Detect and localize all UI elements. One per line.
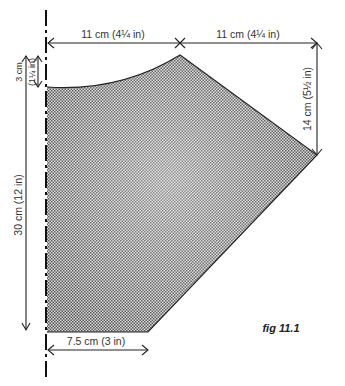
dim-top-left-width: 11 cm (4¼ in) <box>48 28 185 48</box>
dim-bottom-width: 7.5 cm (3 in) <box>48 335 148 355</box>
label-right-height: 14 cm (5½ in) <box>301 67 313 131</box>
label-total-height: 30 cm (12 in) <box>12 174 24 235</box>
label-top-drop: 3 cm <box>14 62 24 82</box>
dim-total-height: 30 cm (12 in) <box>12 174 30 330</box>
label-top-left-width: 11 cm (4¼ in) <box>81 28 144 40</box>
figure-caption: fig 11.1 <box>262 322 299 334</box>
label-top-right-width: 11 cm (4¼ in) <box>216 28 279 40</box>
dim-right-height: 14 cm (5½ in) <box>301 43 322 155</box>
dim-top-right-width: 11 cm (4¼ in) <box>180 28 317 48</box>
pattern-diagram: 11 cm (4¼ in) 11 cm (4¼ in) 14 cm (5½ in… <box>0 0 345 386</box>
pattern-piece <box>47 55 317 332</box>
label-top-drop-imperial: (1¼ in) <box>27 58 37 86</box>
label-bottom-width: 7.5 cm (3 in) <box>67 335 125 347</box>
